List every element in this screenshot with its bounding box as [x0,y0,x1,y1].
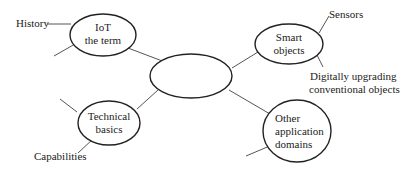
node-other-line-1: Other [275,112,335,125]
branch-technical-empty [60,99,77,112]
branch-iot-empty [54,44,75,56]
node-technical-line-1: Technical [79,110,139,123]
connector-center-technical [137,90,158,109]
connector-center-smart [232,52,258,68]
node-smart-line-2: objects [259,44,319,57]
branch-label-sensors: Sensors [329,8,363,20]
node-other-line-3: domains [275,138,335,151]
node-technical-line-2: basics [79,123,139,136]
branch-sensors [319,16,329,33]
center-node [150,54,232,98]
node-smart-line-1: Smart [259,31,319,44]
branch-label-digitally-1: Digitally upgrading [310,70,396,82]
branch-label-history: History [16,17,49,29]
node-smart-objects-label: Smart objects [259,31,319,57]
node-iot-line-1: IoT [73,21,133,34]
connector-center-iot [128,48,165,62]
node-other-line-2: application [275,125,335,138]
connector-center-other [229,90,270,114]
branch-label-capabilities: Capabilities [34,150,87,162]
node-iot-line-2: the term [73,34,133,47]
node-technical-basics-label: Technical basics [79,110,139,136]
branch-label-digitally-2: conventional objects [309,83,400,95]
node-iot-term-label: IoT the term [73,21,133,47]
node-other-domains-label: Other application domains [275,112,335,151]
